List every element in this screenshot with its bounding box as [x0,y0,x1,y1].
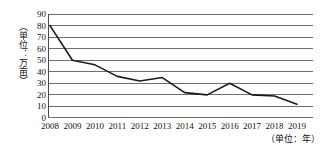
plot-svg [48,14,313,118]
y-axis-tick-label: 20 [26,90,46,99]
x-axis-tick-label: 2018 [266,120,284,132]
y-axis-tick-label: 10 [26,102,46,111]
line-chart: （单位：万亩） 0102030405060708090 200820092010… [0,0,328,155]
y-axis-tick-label: 30 [26,79,46,88]
x-axis-tick-label: 2011 [109,120,127,132]
x-axis-tick-label: 2010 [86,120,104,132]
x-axis-tick-label: 2014 [176,120,194,132]
x-axis-tick-label: 2019 [288,120,306,132]
x-axis-tick-label: 2013 [153,120,171,132]
y-axis-tick-label: 40 [26,67,46,76]
x-axis-tick-label: 2008 [41,120,59,132]
x-axis-tick-labels: 2008200920102011201220132014201520162017… [48,120,318,134]
axis-lines [48,14,313,118]
x-axis-tick-label: 2015 [198,120,216,132]
y-axis-tick-label: 90 [26,10,46,19]
gridlines [48,14,313,106]
x-axis-tick-label: 2017 [243,120,261,132]
plot-area [48,14,313,118]
x-axis-tick-label: 2012 [131,120,149,132]
x-axis-unit-label: （单位：年） [266,134,320,145]
y-axis-tick-label: 50 [26,56,46,65]
y-axis-tick-label: 80 [26,21,46,30]
y-axis-tick-labels: 0102030405060708090 [26,14,46,118]
y-axis-tick-label: 70 [26,33,46,42]
x-axis-tick-label: 2009 [63,120,81,132]
y-axis-tick-label: 60 [26,44,46,53]
x-axis-tick-label: 2016 [221,120,239,132]
